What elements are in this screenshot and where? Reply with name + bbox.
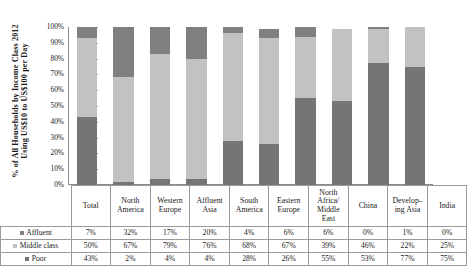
bar-segment: [259, 38, 279, 144]
bar-column: [397, 27, 433, 185]
data-cell: 76%: [190, 240, 230, 253]
y-tick-label: 30%: [50, 134, 64, 141]
bar-column: [105, 27, 141, 185]
table-corner-cell: [1, 186, 72, 227]
bar-stack: [186, 27, 206, 185]
data-cell: 28%: [229, 253, 269, 266]
category-header-cell: Develop–ing Asia: [388, 186, 428, 227]
bar-column: [178, 27, 214, 185]
category-header-line: Europe: [270, 206, 307, 215]
bar-column: [287, 27, 323, 185]
data-cell: 43%: [71, 253, 111, 266]
data-cell: 77%: [388, 253, 428, 266]
y-tick-label: 40%: [50, 118, 64, 125]
bar-stack: [77, 27, 97, 185]
bars-layer: [69, 27, 433, 185]
legend-series-label: Middle class: [20, 241, 59, 250]
bar-column: [142, 27, 178, 185]
data-cell: 26%: [269, 253, 309, 266]
category-header-line: India: [429, 202, 466, 211]
bar-segment: [150, 27, 170, 54]
legend-series-label: Affluent: [26, 228, 52, 237]
bar-segment: [332, 101, 352, 185]
category-header-line: Europe: [152, 206, 189, 215]
y-axis-title-line-2: Using US$10 to US$100 per Day: [20, 43, 29, 158]
category-header-line: Asia: [191, 206, 228, 215]
bar-stack: [368, 27, 388, 185]
y-tick-label: 80%: [50, 55, 64, 62]
category-header-line: Total: [73, 202, 110, 211]
bar-stack: [150, 27, 170, 185]
category-header-cell: WesternEurope: [150, 186, 190, 227]
table-header-row: TotalNorthAmericaWesternEuropeAffluentAs…: [1, 186, 467, 227]
bar-segment: [113, 77, 133, 182]
legend-swatch-icon: [25, 257, 29, 261]
data-cell: 67%: [111, 240, 151, 253]
category-header-line: China: [350, 202, 387, 211]
bar-segment: [368, 63, 388, 185]
bar-segment: [77, 38, 97, 117]
data-cell: 0%: [427, 227, 467, 240]
bar-stack: [259, 27, 279, 185]
category-header-cell: AffluentAsia: [190, 186, 230, 227]
bar-column: [360, 27, 396, 185]
data-cell: 75%: [427, 253, 467, 266]
bar-segment: [77, 117, 97, 185]
data-cell: 32%: [111, 227, 151, 240]
data-cell: 39%: [309, 240, 349, 253]
data-cell: 50%: [71, 240, 111, 253]
data-cell: 67%: [269, 240, 309, 253]
category-header-line: America: [231, 206, 268, 215]
table-row: Affluent7%32%17%20%4%6%6%0%1%0%: [1, 227, 467, 240]
y-axis-tick-labels: 0%10%20%30%40%50%60%70%80%90%100%: [30, 20, 66, 192]
legend-swatch-icon: [13, 244, 17, 248]
bar-column: [251, 27, 287, 185]
category-header-line: America: [112, 206, 149, 215]
bar-segment: [295, 27, 315, 36]
bar-segment: [405, 67, 425, 186]
bar-stack: [405, 27, 425, 185]
category-header-cell: SouthAmerica: [229, 186, 269, 227]
bar-column: [69, 27, 105, 185]
bar-segment: [259, 29, 279, 38]
data-cell: 4%: [150, 253, 190, 266]
legend-swatch-icon: [20, 231, 24, 235]
legend-cell: Poor: [1, 253, 72, 266]
bar-segment: [295, 37, 315, 99]
y-tick-label: 90%: [50, 39, 64, 46]
data-cell: 20%: [190, 227, 230, 240]
legend-cell: Middle class: [1, 240, 72, 253]
data-table: TotalNorthAmericaWesternEuropeAffluentAs…: [0, 185, 467, 266]
bar-segment: [405, 27, 425, 67]
data-cell: 4%: [190, 253, 230, 266]
bar-stack: [332, 27, 352, 185]
y-tick-label: 50%: [50, 102, 64, 109]
data-cell: 55%: [309, 253, 349, 266]
y-tick-label: 70%: [50, 70, 64, 77]
bar-segment: [150, 54, 170, 179]
data-cell: 1%: [388, 227, 428, 240]
bar-segment: [223, 141, 243, 185]
bar-stack: [223, 27, 243, 185]
bar-segment: [223, 33, 243, 140]
category-header-cell: EasternEurope: [269, 186, 309, 227]
data-cell: 25%: [427, 240, 467, 253]
y-tick-label: 10%: [50, 165, 64, 172]
legend-cell: Affluent: [1, 227, 72, 240]
data-cell: 4%: [229, 227, 269, 240]
data-cell: 53%: [348, 253, 388, 266]
bar-segment: [332, 29, 352, 102]
data-cell: 0%: [348, 227, 388, 240]
bar-column: [324, 27, 360, 185]
bar-column: [215, 27, 251, 185]
bar-segment: [295, 98, 315, 185]
category-header-cell: NorthAmerica: [111, 186, 151, 227]
y-tick-label: 20%: [50, 149, 64, 156]
bar-segment: [113, 27, 133, 77]
data-cell: 6%: [269, 227, 309, 240]
y-tick-label: 100%: [47, 23, 64, 30]
data-cell: 79%: [150, 240, 190, 253]
category-header-cell: India: [427, 186, 467, 227]
data-cell: 2%: [111, 253, 151, 266]
